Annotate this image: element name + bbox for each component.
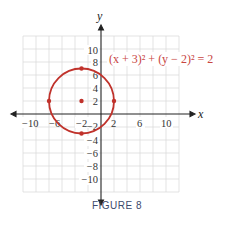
svg-text:−10: −10 xyxy=(22,118,38,129)
y-tick-labels: 10 8 6 4 2 −2 −4 −6 −8 −10 xyxy=(79,45,99,185)
coordinate-plane: x y −10 −6 −2 2 6 10 10 8 6 4 2 −2 −4 −6… xyxy=(0,0,234,228)
x-axis-label: x xyxy=(197,107,204,121)
y-axis-label: y xyxy=(96,9,103,23)
svg-text:−2: −2 xyxy=(76,118,87,129)
equation-label: (x + 3)² + (y − 2)² = 2 xyxy=(109,52,213,66)
top-point xyxy=(79,66,83,70)
svg-text:10: 10 xyxy=(88,45,99,56)
svg-text:2: 2 xyxy=(111,118,116,129)
left-point xyxy=(47,99,51,103)
svg-text:10: 10 xyxy=(161,118,172,129)
svg-text:6: 6 xyxy=(137,118,142,129)
right-point xyxy=(112,99,116,103)
svg-text:−6: −6 xyxy=(87,148,98,159)
svg-text:−8: −8 xyxy=(87,161,98,172)
svg-text:−10: −10 xyxy=(82,174,98,185)
svg-text:8: 8 xyxy=(93,57,98,68)
svg-text:2: 2 xyxy=(93,96,98,107)
svg-text:4: 4 xyxy=(93,83,99,94)
bottom-point xyxy=(79,131,83,135)
figure-caption: FIGURE 8 xyxy=(0,200,234,211)
svg-text:−4: −4 xyxy=(87,135,99,146)
center-point xyxy=(79,99,83,103)
